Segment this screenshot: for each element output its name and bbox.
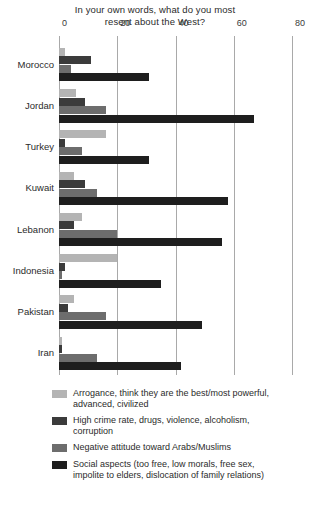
legend-label-line: impolite to elders, dislocation of famil… bbox=[73, 470, 310, 481]
bar bbox=[59, 115, 254, 123]
bar bbox=[59, 321, 202, 329]
legend-label-line: High crime rate, drugs, violence, alcoho… bbox=[73, 415, 310, 426]
bar-group bbox=[59, 295, 292, 329]
y-axis-label-jordan: Jordan bbox=[0, 100, 54, 111]
bar-group bbox=[59, 48, 292, 82]
chart-title-line-2: resent about the West? bbox=[0, 16, 310, 28]
y-axis-label-indonesia: Indonesia bbox=[0, 265, 54, 276]
plot-area: 020406080 bbox=[59, 45, 292, 375]
bar bbox=[59, 280, 161, 288]
bar bbox=[59, 139, 65, 147]
y-axis-label-iran: Iran bbox=[0, 347, 54, 358]
bar bbox=[59, 221, 74, 229]
gridline-80 bbox=[292, 36, 293, 375]
bar bbox=[59, 147, 82, 155]
bar bbox=[59, 180, 85, 188]
x-tick-label: 60 bbox=[237, 18, 247, 28]
bar bbox=[59, 295, 74, 303]
bar bbox=[59, 254, 117, 262]
x-tick-label: 40 bbox=[179, 18, 189, 28]
legend-label-line: corruption bbox=[73, 426, 310, 437]
bar bbox=[59, 213, 82, 221]
legend-label: Arrogance, think they are the best/most … bbox=[73, 388, 310, 410]
legend-label-line: Negative attitude toward Arabs/Muslims bbox=[73, 442, 310, 453]
bar bbox=[59, 271, 62, 279]
bar bbox=[59, 65, 71, 73]
bar bbox=[59, 48, 65, 56]
legend-label: Negative attitude toward Arabs/Muslims bbox=[73, 442, 310, 453]
legend-label-line: Arrogance, think they are the best/most … bbox=[73, 388, 310, 399]
legend-item: High crime rate, drugs, violence, alcoho… bbox=[52, 415, 310, 437]
x-tick-label: 80 bbox=[295, 18, 305, 28]
y-axis-label-turkey: Turkey bbox=[0, 141, 54, 152]
bar bbox=[59, 362, 181, 370]
bar-group bbox=[59, 172, 292, 206]
bar bbox=[59, 337, 62, 345]
bar bbox=[59, 345, 62, 353]
legend-label-line: Social aspects (too free, low morals, fr… bbox=[73, 459, 310, 470]
bar bbox=[59, 56, 91, 64]
bar bbox=[59, 238, 222, 246]
bar bbox=[59, 354, 97, 362]
bar-group bbox=[59, 254, 292, 288]
legend-item: Social aspects (too free, low morals, fr… bbox=[52, 459, 310, 481]
y-axis-label-lebanon: Lebanon bbox=[0, 224, 54, 235]
legend-item: Negative attitude toward Arabs/Muslims bbox=[52, 442, 310, 454]
y-axis-label-kuwait: Kuwait bbox=[0, 182, 54, 193]
x-tick-label: 20 bbox=[120, 18, 130, 28]
y-axis-label-pakistan: Pakistan bbox=[0, 306, 54, 317]
chart-title: In your own words, what do you most rese… bbox=[0, 4, 310, 28]
legend-label: Social aspects (too free, low morals, fr… bbox=[73, 459, 310, 481]
bar bbox=[59, 172, 74, 180]
bar bbox=[59, 312, 106, 320]
bar bbox=[59, 98, 85, 106]
legend-label-line: advanced, civilized bbox=[73, 399, 310, 410]
bar bbox=[59, 304, 68, 312]
bar bbox=[59, 263, 65, 271]
bar-chart: In your own words, what do you most rese… bbox=[0, 0, 310, 507]
legend-item: Arrogance, think they are the best/most … bbox=[52, 388, 310, 410]
bar bbox=[59, 73, 149, 81]
y-axis-label-morocco: Morocco bbox=[0, 59, 54, 70]
legend-swatch-icon bbox=[52, 461, 67, 469]
bar bbox=[59, 197, 228, 205]
legend-swatch-icon bbox=[52, 444, 67, 452]
chart-title-line-1: In your own words, what do you most bbox=[0, 4, 310, 16]
chart-legend: Arrogance, think they are the best/most … bbox=[52, 388, 310, 486]
legend-swatch-icon bbox=[52, 417, 67, 425]
bar-group bbox=[59, 337, 292, 371]
bar bbox=[59, 230, 117, 238]
bar bbox=[59, 189, 97, 197]
bar-group bbox=[59, 213, 292, 247]
bar bbox=[59, 156, 149, 164]
x-tick-label: 0 bbox=[62, 18, 67, 28]
bar-group bbox=[59, 130, 292, 164]
bar bbox=[59, 106, 106, 114]
bar bbox=[59, 130, 106, 138]
legend-swatch-icon bbox=[52, 390, 67, 398]
bar bbox=[59, 89, 76, 97]
legend-label: High crime rate, drugs, violence, alcoho… bbox=[73, 415, 310, 437]
bar-group bbox=[59, 89, 292, 123]
